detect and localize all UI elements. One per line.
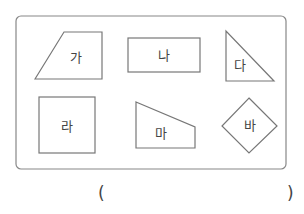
shapes-figure: 가 나 다 라 마 바	[0, 0, 304, 214]
shape-label-ra: 라	[61, 119, 73, 134]
shapes-frame	[16, 16, 286, 169]
answer-open-paren: (	[98, 183, 105, 203]
shape-label-ba: 바	[244, 118, 256, 133]
shape-label-ga: 가	[70, 50, 82, 65]
answer-close-paren: )	[287, 183, 294, 203]
shape-label-na: 나	[158, 48, 170, 63]
answer-blank[interactable]	[110, 185, 282, 205]
shape-label-da: 다	[234, 58, 246, 73]
shape-label-ma: 마	[155, 126, 167, 141]
